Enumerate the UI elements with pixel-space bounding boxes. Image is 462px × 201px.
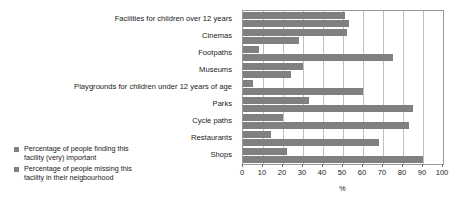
- x-tick-mark: [302, 164, 303, 167]
- bar: [243, 148, 287, 155]
- x-tick-mark: [382, 164, 383, 167]
- legend-entry: Percentage of people finding thisfacilit…: [14, 145, 199, 162]
- category-label: Cycle paths: [0, 116, 232, 125]
- legend-entry: Percentage of people missing thisfacilit…: [14, 165, 199, 182]
- x-tick-mark: [402, 164, 403, 167]
- x-tick-mark: [282, 164, 283, 167]
- category-label: Museums: [0, 65, 232, 74]
- bar: [243, 71, 291, 78]
- bar: [243, 29, 347, 36]
- category-label: Cinemas: [0, 31, 232, 40]
- bar: [243, 131, 271, 138]
- bar: [243, 97, 309, 104]
- bar: [243, 46, 259, 53]
- x-tick-mark: [242, 164, 243, 167]
- bar: [243, 88, 363, 95]
- bar: [243, 20, 349, 27]
- bar: [243, 122, 409, 129]
- legend-label-line2: facility in their neigbourhood: [24, 174, 199, 183]
- x-tick-mark: [362, 164, 363, 167]
- category-label: Playgrounds for children under 12 years …: [0, 82, 232, 91]
- category-axis: Facilities for children over 12 yearsCin…: [0, 10, 238, 163]
- category-label: Footpaths: [0, 48, 232, 57]
- bar: [243, 37, 299, 44]
- x-tick-label: 100: [430, 168, 454, 177]
- legend-swatch-icon: [14, 147, 19, 152]
- bar: [243, 12, 345, 19]
- legend-label-line2: facility (very) important: [24, 154, 199, 163]
- category-label: Facilities for children over 12 years: [0, 14, 232, 23]
- bar: [243, 105, 413, 112]
- x-tick-mark: [262, 164, 263, 167]
- plot-area: [242, 10, 444, 165]
- horizontal-bar-chart: Facilities for children over 12 yearsCin…: [0, 0, 462, 201]
- chart-legend: Percentage of people finding thisfacilit…: [14, 145, 199, 185]
- x-tick-mark: [342, 164, 343, 167]
- x-axis-title: %: [242, 184, 443, 193]
- bars-layer: [243, 11, 443, 164]
- bar: [243, 80, 253, 87]
- x-tick-mark: [422, 164, 423, 167]
- x-tick-mark: [442, 164, 443, 167]
- x-tick-mark: [322, 164, 323, 167]
- legend-swatch-icon: [14, 167, 19, 172]
- bar: [243, 63, 303, 70]
- bar: [243, 114, 283, 121]
- bar: [243, 139, 379, 146]
- bar: [243, 156, 423, 163]
- bar: [243, 54, 393, 61]
- category-label: Restaurants: [0, 133, 232, 142]
- category-label: Parks: [0, 99, 232, 108]
